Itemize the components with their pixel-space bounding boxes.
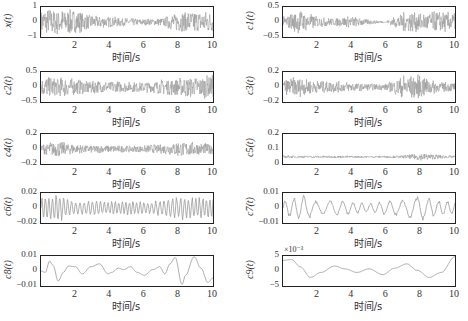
x-tick-label: 10 [205,226,219,236]
y-tick-label: 0 [249,202,279,211]
y-tick-label: −0.5 [7,96,37,105]
y-tick-label: 0 [7,143,37,152]
plot-area [282,192,456,224]
y-tick-label: 0 [7,265,37,274]
x-tick-label: 8 [413,226,427,236]
y-tick-label: 0 [249,81,279,90]
y-tick-label: 0.2 [7,128,37,137]
x-axis-label: 时间/s [338,176,398,191]
y-tick-label: 0.5 [249,1,279,10]
x-tick-label: 2 [309,289,323,299]
x-tick-label: 10 [205,289,219,299]
x-axis-label: 时间/s [96,176,156,191]
x-tick-label: 8 [171,105,185,115]
y-tick-label: −0.02 [7,217,37,226]
y-tick-label: −1 [7,31,37,40]
plot-area [40,255,214,287]
y-tick-label: 0 [249,265,279,274]
y-tick-label: 0.2 [249,66,279,75]
x-axis-label: 时间/s [338,235,398,250]
x-tick-label: 2 [67,167,81,177]
x-tick-label: 2 [309,167,323,177]
y-tick-label: −0.01 [7,280,37,289]
y-multiplier: ×10⁻³ [284,245,303,254]
x-tick-label: 8 [171,289,185,299]
x-tick-label: 8 [171,226,185,236]
y-tick-label: 0.2 [249,128,279,137]
x-axis-label: 时间/s [96,49,156,64]
plot-area [40,71,214,103]
x-tick-label: 10 [447,40,461,50]
x-tick-label: 2 [67,40,81,50]
plot-area [40,192,214,224]
y-tick-label: 0.01 [249,187,279,196]
x-axis-label: 时间/s [338,298,398,313]
y-tick-label: −0.2 [7,158,37,167]
x-tick-label: 10 [205,105,219,115]
x-axis-label: 时间/s [96,298,156,313]
x-tick-label: 2 [67,105,81,115]
y-tick-label: 0 [249,158,279,167]
x-tick-label: 2 [309,105,323,115]
x-tick-label: 2 [67,226,81,236]
plot-area [282,255,456,287]
x-tick-label: 2 [309,40,323,50]
plot-area [40,6,214,38]
y-tick-label: −0.5 [249,31,279,40]
x-axis-label: 时间/s [338,49,398,64]
x-tick-label: 10 [447,289,461,299]
x-tick-label: 8 [413,289,427,299]
y-tick-label: 0 [249,16,279,25]
x-axis-label: 时间/s [338,114,398,129]
y-tick-label: −5 [249,280,279,289]
y-tick-label: −0.01 [249,217,279,226]
x-tick-label: 2 [67,289,81,299]
y-tick-label: 0 [7,202,37,211]
x-tick-label: 8 [413,105,427,115]
x-tick-label: 8 [171,40,185,50]
x-tick-label: 10 [447,105,461,115]
x-tick-label: 2 [309,226,323,236]
plot-area [282,133,456,165]
x-tick-label: 10 [205,167,219,177]
plot-area [282,6,456,38]
x-axis-label: 时间/s [96,114,156,129]
x-tick-label: 10 [447,226,461,236]
y-tick-label: 0.1 [249,143,279,152]
x-tick-label: 8 [171,167,185,177]
x-tick-label: 8 [413,40,427,50]
x-axis-label: 时间/s [96,235,156,250]
y-tick-label: 0.5 [7,66,37,75]
x-tick-label: 8 [413,167,427,177]
y-tick-label: 0.02 [7,187,37,196]
y-tick-label: 5 [249,250,279,259]
x-tick-label: 10 [447,167,461,177]
y-tick-label: 0 [7,81,37,90]
y-tick-label: 1 [7,1,37,10]
x-tick-label: 10 [205,40,219,50]
y-tick-label: 0 [7,16,37,25]
y-tick-label: 0.01 [7,250,37,259]
plot-area [40,133,214,165]
y-tick-label: −0.2 [249,96,279,105]
plot-area [282,71,456,103]
